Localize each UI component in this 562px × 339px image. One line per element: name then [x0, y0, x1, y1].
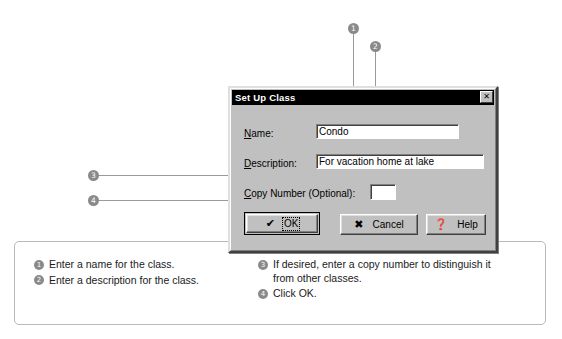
- name-label-rest: ame:: [251, 128, 273, 139]
- caption-text-4: Click OK.: [273, 287, 508, 301]
- description-label-rest: escription:: [251, 158, 297, 169]
- caption-column-right: 3 If desired, enter a copy number to dis…: [258, 258, 508, 303]
- caption-text-3: If desired, enter a copy number to disti…: [273, 258, 508, 285]
- caption-bullet-1: 1: [34, 260, 44, 270]
- name-input[interactable]: Condo: [316, 124, 459, 139]
- description-label: Description:: [244, 158, 297, 169]
- caption-item: 1 Enter a name for the class.: [34, 258, 249, 272]
- caption-bullet-3: 3: [258, 260, 268, 270]
- caption-bullet-4: 4: [258, 289, 268, 299]
- caption-item: 2 Enter a description for the class.: [34, 274, 249, 288]
- copy-number-label-rest: opy Number (Optional):: [251, 188, 355, 199]
- callout-marker-3: 3: [88, 170, 99, 181]
- check-icon: ✔: [266, 218, 275, 229]
- cancel-button-label: Cancel: [373, 220, 404, 230]
- set-up-class-dialog: Set Up Class ✕ Name: Condo Description: …: [228, 86, 498, 253]
- close-icon[interactable]: ✕: [480, 91, 493, 103]
- caption-column-left: 1 Enter a name for the class. 2 Enter a …: [34, 258, 249, 289]
- question-mark-icon: ❓: [434, 219, 448, 230]
- cancel-button[interactable]: ✖ Cancel: [340, 214, 418, 235]
- dialog-titlebar[interactable]: Set Up Class ✕: [232, 90, 494, 105]
- ok-button-label: OK: [284, 219, 298, 229]
- caption-item: 3 If desired, enter a copy number to dis…: [258, 258, 508, 285]
- ok-button[interactable]: ✔ OK: [246, 214, 318, 233]
- close-x-icon: ✖: [354, 219, 363, 230]
- help-button-label: Help: [457, 220, 478, 230]
- dialog-title: Set Up Class: [235, 92, 295, 103]
- caption-text-2: Enter a description for the class.: [49, 274, 249, 288]
- caption-text-1: Enter a name for the class.: [49, 258, 249, 272]
- copy-number-input[interactable]: [370, 184, 396, 200]
- caption-bullet-2: 2: [34, 275, 44, 285]
- help-button[interactable]: ❓ Help: [426, 214, 486, 235]
- callout-marker-1: 1: [348, 23, 359, 34]
- description-input[interactable]: For vacation home at lake: [316, 154, 484, 169]
- callout-marker-4: 4: [88, 195, 99, 206]
- callout-marker-2: 2: [370, 41, 381, 52]
- name-label: Name:: [244, 128, 273, 139]
- caption-item: 4 Click OK.: [258, 287, 508, 301]
- copy-number-label: Copy Number (Optional):: [244, 188, 355, 199]
